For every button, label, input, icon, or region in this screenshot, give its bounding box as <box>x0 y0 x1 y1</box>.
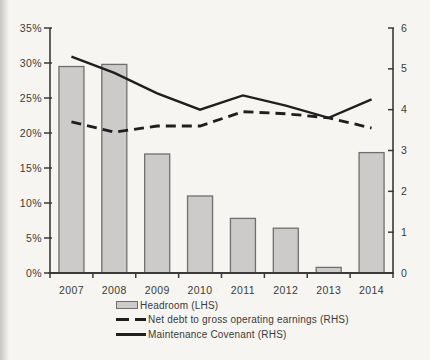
headroom-bar-2011 <box>230 218 255 273</box>
bar-swatch-icon <box>116 301 138 309</box>
x-tick-label: 2007 <box>59 284 84 296</box>
x-tick-label: 2014 <box>359 284 384 296</box>
right-tick-label: 2 <box>401 185 407 197</box>
figure-page: 0%5%10%15%20%25%30%35%012345620072008200… <box>0 0 430 360</box>
left-tick-label: 25% <box>20 92 42 104</box>
headroom-bar-2014 <box>359 153 384 273</box>
right-tick-label: 6 <box>401 22 407 34</box>
left-tick-label: 15% <box>20 162 42 174</box>
right-tick-label: 5 <box>401 62 407 74</box>
legend-label: Net debt to gross operating earnings (RH… <box>148 314 349 325</box>
left-tick-label: 5% <box>26 232 42 244</box>
left-tick-label: 30% <box>20 57 42 69</box>
x-tick-label: 2010 <box>188 284 213 296</box>
right-tick-label: 0 <box>401 267 407 279</box>
legend-item-net-debt: Net debt to gross operating earnings (RH… <box>116 313 349 328</box>
legend-label: Maintenance Covenant (RHS) <box>148 329 287 340</box>
left-tick-label: 10% <box>20 197 42 209</box>
headroom-bar-2012 <box>273 228 298 273</box>
x-tick-label: 2012 <box>273 284 298 296</box>
legend-item-covenant: Maintenance Covenant (RHS) <box>116 327 349 342</box>
headroom-bar-2010 <box>188 196 213 273</box>
headroom-bar-2007 <box>59 67 84 274</box>
right-tick-label: 1 <box>401 226 407 238</box>
right-tick-label: 3 <box>401 144 407 156</box>
left-tick-label: 35% <box>20 22 42 34</box>
x-tick-label: 2013 <box>316 284 341 296</box>
x-tick-label: 2011 <box>231 284 255 296</box>
legend-label: Headroom (LHS) <box>140 300 218 311</box>
chart-legend: Headroom (LHS) Net debt to gross operati… <box>116 298 349 342</box>
solid-line-swatch-icon <box>116 333 146 336</box>
x-tick-label: 2009 <box>145 284 170 296</box>
headroom-bar-2009 <box>145 154 170 273</box>
right-tick-label: 4 <box>401 103 407 115</box>
left-tick-label: 20% <box>20 127 42 139</box>
left-tick-label: 0% <box>26 267 42 279</box>
dashed-line-swatch-icon <box>116 318 146 321</box>
headroom-bar-2008 <box>102 64 127 273</box>
x-tick-label: 2008 <box>102 284 127 296</box>
legend-item-headroom: Headroom (LHS) <box>116 298 349 313</box>
